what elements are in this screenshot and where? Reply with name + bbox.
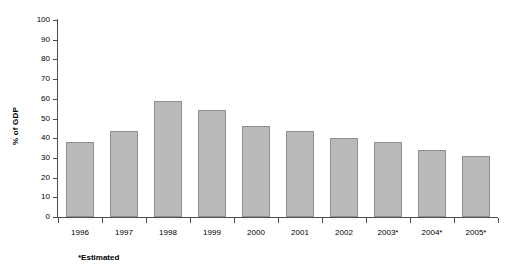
x-axis-tick-mark [278,218,279,223]
x-axis-tick-label: 1998 [144,228,192,237]
x-axis-tick-mark [102,218,103,223]
y-axis-tick-label: 40 [41,133,50,142]
bar [110,131,138,217]
x-axis-tick-mark [58,218,59,223]
x-axis-tick-mark [190,218,191,223]
y-axis-tick-label: 30 [41,153,50,162]
x-axis-tick-label: 1996 [56,228,104,237]
y-axis-tick-label: 70 [41,74,50,83]
y-axis-title: % of GDP [8,96,22,156]
x-axis-tick-label: 2003* [364,228,412,237]
x-axis-tick-label: 2005* [452,228,500,237]
x-axis-tick-label: 2001 [276,228,324,237]
x-axis-tick-mark [454,218,455,223]
x-axis-tick-label: 1999 [188,228,236,237]
x-axis-tick-mark [366,218,367,223]
bar [330,138,358,217]
x-axis-tick-mark [234,218,235,223]
y-axis-tick-label: 90 [41,35,50,44]
y-axis-tick-label: 10 [41,192,50,201]
y-axis-tick-label: 20 [41,173,50,182]
y-axis-tick-label: 50 [41,114,50,123]
x-axis-tick-mark [322,218,323,223]
bar [286,131,314,217]
bar [462,156,490,217]
y-axis-tick-label: 80 [41,54,50,63]
x-axis-tick-label: 2004* [408,228,456,237]
x-axis-tick-mark [146,218,147,223]
footnote-estimated: *Estimated [78,253,119,262]
y-axis-tick-label: 60 [41,94,50,103]
x-axis-tick-mark [410,218,411,223]
x-axis-tick-label: 2000 [232,228,280,237]
bars-layer [58,20,498,217]
bar [198,110,226,217]
bar [154,101,182,217]
bar [418,150,446,217]
x-axis-tick-mark [498,218,499,223]
bar [66,142,94,217]
y-axis-tick-label: 100 [37,15,50,24]
bar-chart-figure: % of GDP 1009080706050403020100 19961997… [0,0,516,280]
x-axis-tick-label: 2002 [320,228,368,237]
bar [374,142,402,217]
bar [242,126,270,217]
plot-area: 1009080706050403020100 [58,20,498,217]
x-axis-tick-label: 1997 [100,228,148,237]
y-axis-tick-label: 0 [46,212,50,221]
